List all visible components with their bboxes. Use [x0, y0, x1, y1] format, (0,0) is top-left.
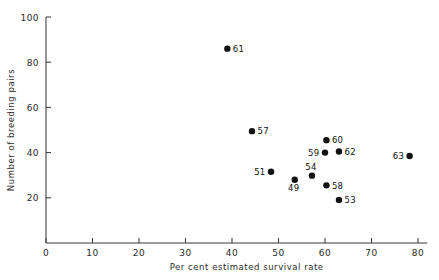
data-point-label: 63	[393, 151, 404, 161]
x-axis-tick-label: 30	[179, 248, 191, 258]
data-point-marker	[406, 153, 412, 159]
data-point-label: 61	[233, 44, 244, 54]
data-point-marker	[323, 182, 329, 188]
data-point-marker	[336, 148, 342, 154]
x-axis-tick-label: 40	[226, 248, 238, 258]
y-axis-tick-label: 20	[27, 193, 39, 203]
data-point-marker	[309, 172, 315, 178]
x-axis-tick-label: 80	[412, 248, 424, 258]
x-axis-tick-label: 50	[272, 248, 284, 258]
data-point-marker	[249, 128, 255, 134]
data-point-marker	[268, 169, 274, 175]
x-axis-tick-label: 60	[319, 248, 331, 258]
data-point-label: 54	[305, 162, 316, 172]
y-axis-title: Number of breeding pairs	[6, 69, 16, 191]
data-point-marker	[336, 197, 342, 203]
data-point-label: 53	[344, 195, 355, 205]
data-point-marker	[323, 137, 329, 143]
data-point-marker	[322, 149, 328, 155]
scatter-plot-canvas: 2040608010001020304050607080Per cent est…	[0, 0, 439, 280]
x-axis-tick-label: 20	[133, 248, 145, 258]
y-axis-tick-label: 80	[27, 58, 39, 68]
data-point-group: 6157606259635154495853	[224, 44, 413, 205]
y-axis-tick-label: 100	[21, 13, 39, 23]
x-axis-tick-label: 10	[86, 248, 98, 258]
x-axis-title: Per cent estimated survival rate	[170, 262, 324, 272]
data-point-label: 58	[332, 181, 343, 191]
data-point-label: 60	[332, 135, 343, 145]
x-axis-tick-label: 0	[43, 248, 49, 258]
data-point-label: 49	[288, 183, 299, 193]
scatter-plot-figure: 2040608010001020304050607080Per cent est…	[0, 0, 439, 280]
x-axis-tick-label: 70	[365, 248, 377, 258]
y-axis-tick-label: 60	[27, 103, 39, 113]
data-point-label: 51	[254, 167, 265, 177]
data-point-label: 62	[344, 147, 355, 157]
data-point-label: 59	[308, 148, 319, 158]
data-point-marker	[224, 45, 230, 51]
y-axis-tick-label: 40	[27, 148, 39, 158]
data-point-label: 57	[257, 126, 268, 136]
